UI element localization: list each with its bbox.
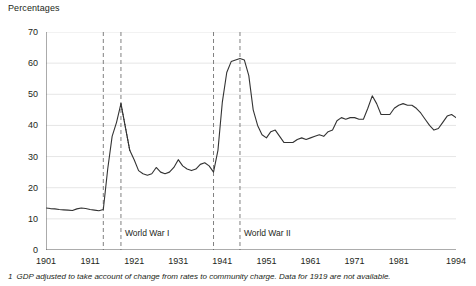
y-axis-tick-label: 10 [16,214,38,224]
x-axis-tick-label: 1901 [26,256,66,266]
chart-container: Percentages 010203040506070 190119111921… [0,0,476,286]
y-axis-tick-label: 40 [16,120,38,130]
x-axis-tick-label: 1951 [246,256,286,266]
y-axis-tick-label: 70 [16,27,38,37]
x-axis-tick-label: 1921 [114,256,154,266]
annotation-label: World War II [244,228,291,238]
x-axis-tick-label: 1971 [335,256,375,266]
x-axis-tick-label: 1911 [70,256,110,266]
y-axis-tick-label: 50 [16,89,38,99]
footnote-text: GDP adjusted to take account of change f… [16,272,390,281]
footnote-marker: 1 [8,272,12,281]
annotation-lines [103,32,240,250]
y-axis-tick-label: 30 [16,152,38,162]
x-axis-tick-label: 1981 [379,256,419,266]
x-axis-tick-label: 1961 [291,256,331,266]
annotation-label: World War I [125,228,169,238]
y-axis-tick-label: 20 [16,183,38,193]
y-axis-tick-label: 60 [16,58,38,68]
x-axis-tick-label: 1931 [158,256,198,266]
footnote: 1GDP adjusted to take account of change … [8,272,391,281]
x-axis-tick-label: 1941 [202,256,242,266]
plot-area [46,32,456,250]
chart-svg [46,32,456,250]
x-axis-tick-label: 1994 [436,256,476,266]
y-axis-tick-label: 0 [16,245,38,255]
y-axis-title: Percentages [8,3,60,13]
gridlines [46,32,456,219]
